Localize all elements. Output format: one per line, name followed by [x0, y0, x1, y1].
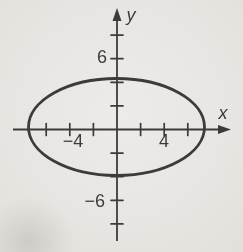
x-axis-arrowhead-icon [218, 125, 231, 134]
ellipse-graph: yx6−6−44 [0, 0, 243, 252]
textbook-figure-scan: yx6−6−44 [0, 0, 243, 252]
x-axis-label: x [218, 103, 229, 123]
x-tick-label-4: 4 [159, 131, 169, 151]
y-axis-arrowhead-icon [113, 8, 122, 21]
y-axis-label: y [125, 5, 137, 25]
x-tick-label-neg4: −4 [63, 131, 84, 151]
y-tick-label-neg6: −6 [84, 191, 105, 211]
y-tick-label-6: 6 [97, 47, 107, 67]
